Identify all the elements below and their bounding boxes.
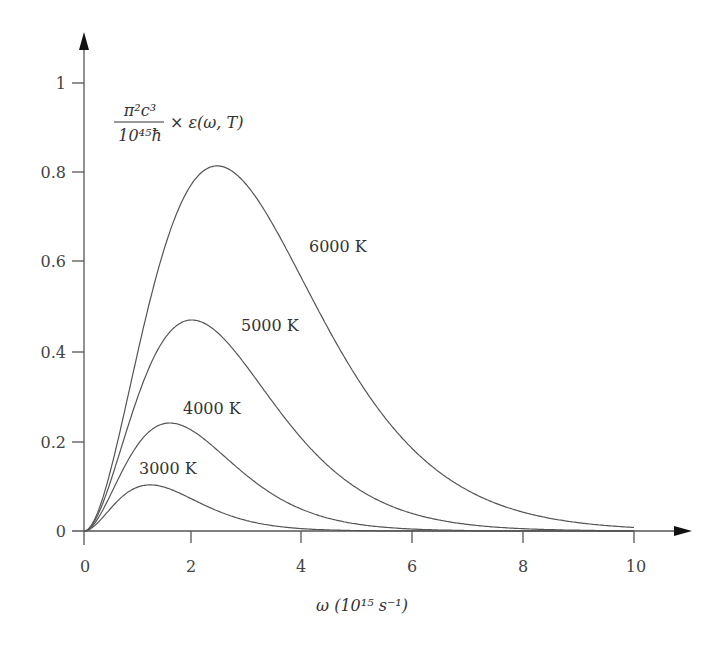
y-tick-label: 0.8 xyxy=(41,163,66,182)
x-tick-label: 0 xyxy=(80,557,90,576)
x-axis-label: ω (10¹⁵ s⁻¹) xyxy=(316,596,408,615)
y-tick-label: 0.4 xyxy=(41,343,66,362)
curve-5000k xyxy=(84,320,634,531)
curve-label-6000k: 6000 K xyxy=(309,237,368,256)
x-tick-label: 2 xyxy=(186,557,196,576)
x-ticks: 0 2 4 6 8 10 xyxy=(80,531,646,576)
y-axis-label: π²c³ 10⁴⁵ħ × ε(ω, T) xyxy=(114,101,243,145)
x-tick-label: 4 xyxy=(296,557,306,576)
y-label-denominator: 10⁴⁵ħ xyxy=(118,126,162,145)
y-axis-arrow-icon xyxy=(79,32,89,50)
x-tick-label: 6 xyxy=(407,557,417,576)
planck-chart: 1 0.8 0.6 0.4 0.2 0 0 2 4 6 8 10 6000 K … xyxy=(0,0,727,648)
y-ticks: 1 0.8 0.6 0.4 0.2 0 xyxy=(41,74,84,541)
curve-label-3000k: 3000 K xyxy=(139,459,198,478)
y-tick-label: 0 xyxy=(56,522,66,541)
x-tick-label: 8 xyxy=(518,557,528,576)
y-tick-label: 1 xyxy=(56,74,66,93)
x-axis-arrow-icon xyxy=(674,526,692,536)
y-label-numerator: π²c³ xyxy=(123,101,156,120)
y-label-rest: × ε(ω, T) xyxy=(170,113,243,132)
y-tick-label: 0.6 xyxy=(41,252,66,271)
y-tick-label: 0.2 xyxy=(41,433,66,452)
x-tick-label: 10 xyxy=(626,557,646,576)
curve-label-4000k: 4000 K xyxy=(183,399,242,418)
curve-label-5000k: 5000 K xyxy=(241,316,300,335)
